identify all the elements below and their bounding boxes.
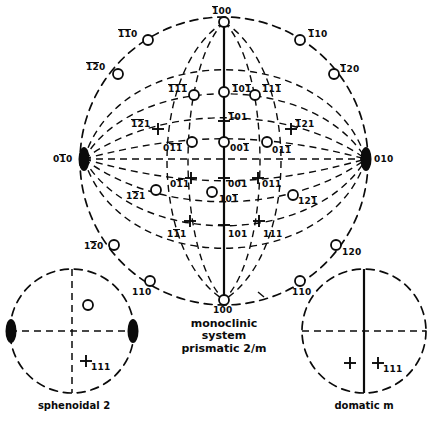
pole-label-p-100: 100 [213,306,232,315]
pole-label-p-120: 120 [342,248,361,257]
pole-label-d-cross-right: 111 [383,365,402,374]
pole-marker-circle[interactable] [187,137,197,147]
pole-marker-circle[interactable] [295,276,305,286]
pole-marker-circle[interactable] [329,69,339,79]
pole-marker-cross[interactable] [184,215,196,227]
pole-label-p-1b00: 100 [212,7,231,16]
pole-label-p-12b1: 121 [126,192,145,201]
pole-marker-circle[interactable] [207,187,217,197]
pole-marker-circle[interactable] [145,276,155,286]
pole-label-p-1b10b: 110 [132,288,151,297]
pole-label-p-001: 001 [228,180,247,189]
pole-marker-circle[interactable] [288,190,298,200]
pole-label-p-101: 101 [228,230,247,239]
pole-label-p-01b1: 011 [170,180,189,189]
main-figure-caption: monoclinic system prismatic 2/m [154,318,294,355]
pole-marker-lens[interactable] [128,319,139,343]
pole-marker-cross[interactable] [344,357,356,369]
pole-label-p-01b1b: 011 [163,144,182,153]
pole-label-p-1b1b0: 110 [118,30,137,39]
caption-line-2: system [154,330,294,342]
pole-marker-circle[interactable] [331,240,341,250]
pole-marker-circle[interactable] [250,90,260,100]
pole-label-p-111: 111 [263,230,282,239]
pole-label-p-1b2b1: 121 [131,120,150,129]
pole-marker-circle[interactable] [219,295,229,305]
pole-label-p-0b10: 010 [53,155,72,164]
pole-marker-lens[interactable] [6,319,17,343]
sphenoidal-caption: sphenoidal 2 [12,400,136,411]
pole-label-p-1b2b0b: 120 [84,242,103,251]
pole-marker-circle[interactable] [113,69,123,79]
pole-marker-circle[interactable] [295,35,305,45]
primitive-tick-mark [258,292,264,297]
stereogram-vector-layer [0,0,446,421]
pole-label-p-1b2b0: 120 [86,63,105,72]
pole-label-p-1b1b1: 111 [168,85,187,94]
pole-label-p-001b: 001 [230,144,249,153]
pole-label-p-010: 010 [374,155,393,164]
domatic-caption: domatic m [302,400,426,411]
pole-label-p-1b11: 111 [167,230,186,239]
pole-label-p-011: 011 [262,180,281,189]
pole-label-p-011b: 011 [272,146,291,155]
pole-marker-lens[interactable] [79,147,90,171]
pole-marker-circle[interactable] [262,137,272,147]
pole-label-p-1b11b: 111 [262,85,281,94]
pole-marker-circle[interactable] [83,300,93,310]
pole-label-p-1b0b1: 101 [232,85,251,94]
pole-marker-circle[interactable] [151,185,161,195]
pole-marker-circle[interactable] [189,90,199,100]
pole-label-p-1b20: 120 [340,65,359,74]
pole-marker-circle[interactable] [109,240,119,250]
pole-label-p-110: 110 [292,288,311,297]
pole-marker-circle[interactable] [219,17,229,27]
figure-canvas: 1001101201101201111011111011211210110010… [0,0,446,421]
pole-marker-circle[interactable] [143,35,153,45]
pole-marker-circle[interactable] [219,87,229,97]
caption-line-3: prismatic 2/m [154,343,294,355]
pole-label-s-cross-111: 111 [91,363,110,372]
pole-marker-lens[interactable] [361,147,372,171]
pole-label-p-1b10: 110 [308,30,327,39]
pole-label-p-121b: 121 [298,197,317,206]
pole-label-p-101b: 101 [219,195,238,204]
pole-marker-circle[interactable] [219,137,229,147]
pole-label-p-1b21: 121 [295,120,314,129]
pole-label-p-1b01: 101 [228,113,247,122]
